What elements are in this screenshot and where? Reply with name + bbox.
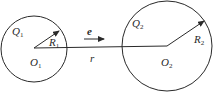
unit-vector-label: e — [87, 25, 92, 37]
center-1-label: O1 — [30, 56, 42, 70]
charge-1-label: Q1 — [12, 25, 24, 39]
center-2-label: O2 — [161, 56, 173, 70]
two-spheres-diagram: Q1 R1 O1 Q2 R2 O2 e r — [0, 0, 214, 94]
distance-label: r — [90, 52, 95, 64]
radius-1-label: R1 — [48, 36, 60, 50]
radius-2-label: R2 — [193, 33, 205, 47]
charge-2-label: Q2 — [132, 17, 144, 31]
